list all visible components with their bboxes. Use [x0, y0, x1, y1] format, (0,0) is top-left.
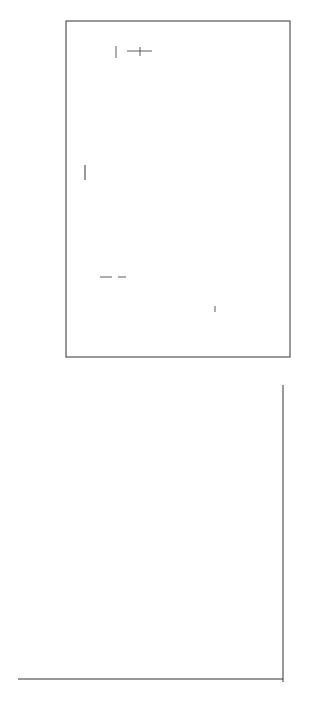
- counts-panel: [18, 385, 283, 698]
- figure: [0, 0, 324, 720]
- decay-panel-frame: [66, 21, 290, 357]
- decay-panel: [66, 21, 290, 357]
